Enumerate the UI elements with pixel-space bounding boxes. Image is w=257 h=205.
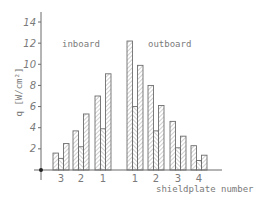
x-category-label: 3 bbox=[175, 173, 181, 184]
bar-inboard-1-3 bbox=[106, 74, 112, 170]
x-category-label: 4 bbox=[196, 173, 202, 184]
y-tick-label: 6 bbox=[30, 101, 36, 112]
x-category-labels: 3211234 bbox=[58, 173, 202, 184]
bar-outboard-1-1 bbox=[127, 41, 133, 170]
chart: 2468101214 3211234 q [W/cm²] inboard out… bbox=[0, 0, 257, 205]
bar-outboard-1-2 bbox=[133, 107, 138, 170]
y-ticks: 2468101214 bbox=[23, 17, 41, 155]
x-category-label: 3 bbox=[58, 173, 64, 184]
bar-inboard-1-1 bbox=[95, 96, 101, 170]
y-tick-label: 10 bbox=[23, 59, 36, 70]
bar-outboard-1-3 bbox=[138, 65, 144, 170]
y-axis-title: q [W/cm²] bbox=[14, 68, 24, 117]
x-category-label: 1 bbox=[100, 173, 106, 184]
bar-inboard-2-2 bbox=[79, 147, 84, 170]
bar-outboard-4-3 bbox=[202, 155, 208, 170]
y-tick-label: 4 bbox=[30, 122, 36, 133]
y-tick-label: 14 bbox=[23, 17, 36, 28]
bar-outboard-2-3 bbox=[159, 106, 165, 170]
bar-inboard-2-1 bbox=[73, 131, 79, 170]
origin-dot bbox=[39, 168, 43, 172]
bar-outboard-2-1 bbox=[148, 85, 154, 170]
bar-inboard-2-3 bbox=[84, 114, 90, 170]
bar-outboard-4-1 bbox=[191, 146, 197, 170]
bar-outboard-4-2 bbox=[197, 160, 202, 170]
inboard-label: inboard bbox=[62, 39, 100, 49]
outboard-label: outboard bbox=[148, 39, 191, 49]
bar-inboard-3-2 bbox=[59, 158, 64, 170]
x-axis-title: shieldplate number bbox=[156, 184, 254, 194]
y-tick-label: 2 bbox=[30, 143, 36, 154]
x-category-label: 2 bbox=[153, 173, 159, 184]
bar-inboard-1-2 bbox=[101, 129, 106, 170]
x-category-label: 2 bbox=[78, 173, 84, 184]
y-tick-label: 12 bbox=[23, 38, 36, 49]
bar-inboard-3-3 bbox=[64, 144, 70, 170]
x-category-label: 1 bbox=[132, 173, 138, 184]
bar-inboard-3-1 bbox=[53, 153, 59, 170]
bar-outboard-3-3 bbox=[181, 136, 187, 170]
y-tick-label: 8 bbox=[30, 80, 36, 91]
bars bbox=[53, 41, 207, 170]
bar-outboard-2-2 bbox=[154, 131, 159, 170]
bar-outboard-3-2 bbox=[176, 148, 181, 170]
bar-outboard-3-1 bbox=[170, 121, 176, 170]
